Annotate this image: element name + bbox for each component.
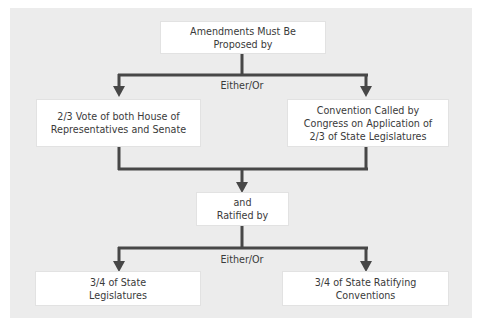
ratified-by-box: and Ratified by xyxy=(197,193,288,225)
proposal-either-or-label: Either/Or xyxy=(202,80,282,91)
proposal-header-box: Amendments Must Be Proposed by xyxy=(161,22,325,53)
state-legislatures-box: 3/4 of State Legislatures xyxy=(36,272,200,305)
ratification-either-or-label: Either/Or xyxy=(202,254,282,265)
arrow-down-icon xyxy=(360,261,372,272)
arrow-down-icon xyxy=(236,182,248,193)
congress-vote-box: 2/3 Vote of both House of Representative… xyxy=(37,100,200,146)
arrow-down-icon xyxy=(360,86,372,97)
state-conventions-box: 3/4 of State Ratifying Conventions xyxy=(283,272,448,305)
convention-box: Convention Called by Congress on Applica… xyxy=(288,100,448,146)
arrow-down-icon xyxy=(113,86,125,97)
arrow-down-icon xyxy=(113,261,125,272)
